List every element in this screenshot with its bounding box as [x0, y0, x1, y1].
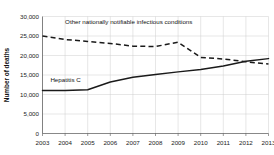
x-tick-label: 2005: [81, 139, 95, 146]
y-tick-label: 25,000: [20, 32, 39, 39]
line-chart: 05,00010,00015,00020,00025,00030,000 200…: [0, 0, 274, 155]
y-tick-label: 15,000: [20, 71, 39, 78]
tickmarks: [43, 134, 269, 137]
annotation-hepatitis-c: Hepatitis C: [50, 76, 81, 83]
x-tick-label: 2013: [262, 139, 274, 146]
y-tick-label: 30,000: [20, 13, 39, 20]
y-tick-label: 10,000: [20, 91, 39, 98]
y-tick-label: 5,000: [24, 110, 40, 117]
y-axis-title: Number of deaths: [3, 47, 10, 102]
x-tick-label: 2011: [217, 139, 231, 146]
x-tick-label: 2009: [171, 139, 185, 146]
x-tick-label: 2004: [58, 139, 72, 146]
x-tick-label: 2008: [149, 139, 163, 146]
x-tick-label: 2006: [103, 139, 117, 146]
x-tick-label: 2007: [126, 139, 140, 146]
y-tick-labels: 05,00010,00015,00020,00025,00030,000: [20, 13, 39, 137]
x-tick-label: 2012: [239, 139, 253, 146]
y-tick-label: 20,000: [20, 52, 39, 59]
y-tick-label: 0: [36, 130, 40, 137]
annotation-other-conditions: Other nationally notifiable infectious c…: [65, 18, 192, 25]
x-tick-labels: 2003200420052006200720082009201020112012…: [36, 139, 274, 146]
x-tick-label: 2003: [36, 139, 50, 146]
x-tick-label: 2010: [194, 139, 208, 146]
chart-container: 05,00010,00015,00020,00025,00030,000 200…: [0, 0, 274, 155]
